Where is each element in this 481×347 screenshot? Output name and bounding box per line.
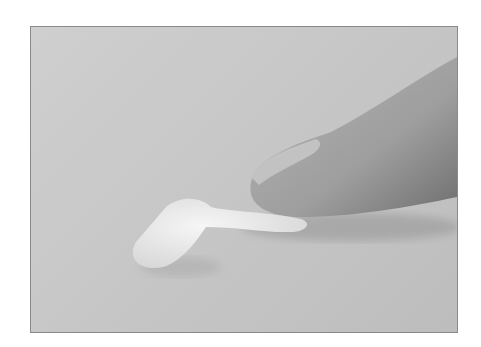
- finger: [250, 57, 457, 217]
- photo: [30, 26, 458, 333]
- photo-illustration: [31, 27, 457, 332]
